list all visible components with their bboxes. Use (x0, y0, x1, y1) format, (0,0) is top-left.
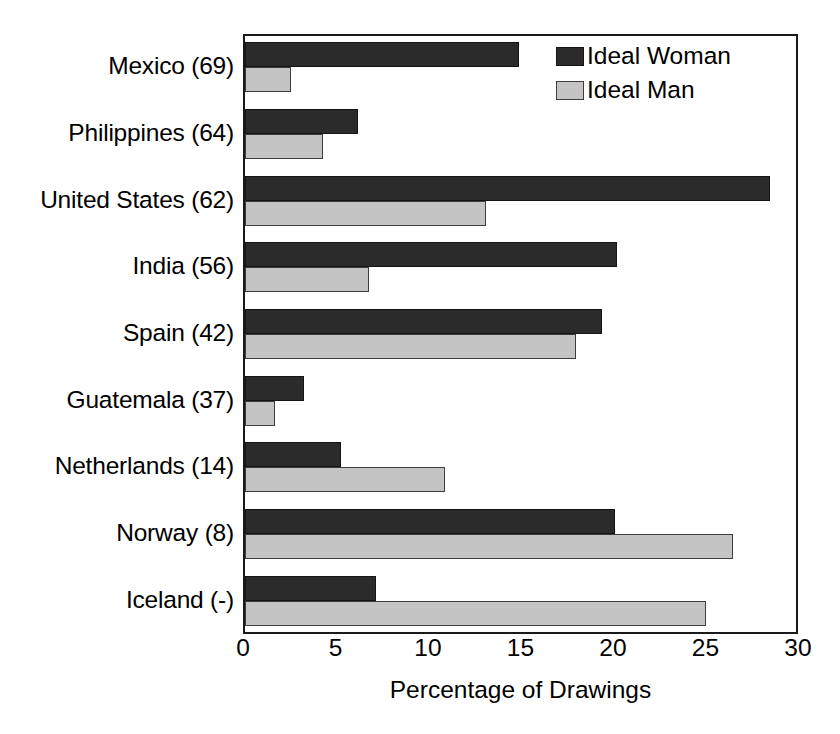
bar-ideal-man (245, 601, 706, 626)
bar-ideal-woman (245, 442, 341, 467)
bar-ideal-man (245, 534, 733, 559)
chart-legend: Ideal WomanIdeal Man (556, 36, 731, 108)
x-tick-label: 25 (692, 636, 719, 661)
plot-area (243, 34, 798, 634)
category-label: Netherlands (14) (6, 454, 234, 479)
legend-item: Ideal Man (556, 76, 731, 104)
category-label: India (56) (6, 254, 234, 279)
category-label: Philippines (64) (6, 121, 234, 146)
bar-ideal-woman (245, 309, 602, 334)
bar-ideal-man (245, 201, 486, 226)
bar-ideal-woman (245, 376, 304, 401)
bar-ideal-woman (245, 509, 615, 534)
category-label: Guatemala (37) (6, 388, 234, 413)
bar-ideal-woman (245, 42, 519, 67)
x-tick-label: 0 (236, 636, 250, 661)
x-tick-label: 30 (784, 636, 811, 661)
bar-group (245, 436, 796, 503)
category-label: Mexico (69) (6, 54, 234, 79)
bar-ideal-woman (245, 242, 617, 267)
bar-group (245, 236, 796, 303)
bar-ideal-woman (245, 576, 376, 601)
bar-ideal-man (245, 134, 323, 159)
category-axis-labels: Mexico (69)Philippines (64)United States… (0, 34, 234, 634)
bar-ideal-man (245, 401, 275, 426)
bar-ideal-man (245, 334, 576, 359)
category-label: Iceland (-) (6, 588, 234, 613)
x-tick-label: 10 (414, 636, 441, 661)
bar-group (245, 169, 796, 236)
bar-group (245, 569, 796, 636)
x-axis-ticks: 051015202530 (243, 636, 798, 670)
bar-chart-figure: Mexico (69)Philippines (64)United States… (0, 0, 840, 734)
bar-group (245, 369, 796, 436)
x-tick-label: 20 (599, 636, 626, 661)
bar-group (245, 103, 796, 170)
bar-ideal-man (245, 67, 291, 92)
bar-ideal-woman (245, 176, 770, 201)
bar-group (245, 503, 796, 570)
dark-swatch-icon (556, 47, 584, 66)
category-label: Spain (42) (6, 321, 234, 346)
legend-label: Ideal Woman (587, 44, 731, 69)
light-swatch-icon (556, 81, 584, 100)
bar-ideal-woman (245, 109, 358, 134)
bar-ideal-man (245, 267, 369, 292)
x-axis-title: Percentage of Drawings (243, 678, 798, 703)
category-label: Norway (8) (6, 521, 234, 546)
x-tick-label: 15 (507, 636, 534, 661)
bar-ideal-man (245, 467, 445, 492)
legend-item: Ideal Woman (556, 42, 731, 70)
bar-group (245, 303, 796, 370)
legend-label: Ideal Man (587, 78, 695, 103)
category-label: United States (62) (6, 188, 234, 213)
x-tick-label: 5 (329, 636, 343, 661)
